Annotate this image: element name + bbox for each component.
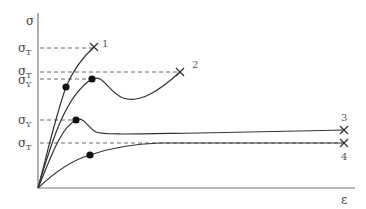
stress-label-sigma-t-3: σ T bbox=[18, 136, 32, 152]
stress-strain-diagram: σ ε σ T σ T σ Y σ Y σ T 1 2 bbox=[0, 0, 366, 209]
svg-text:σ: σ bbox=[18, 73, 26, 87]
curve-1-label: 1 bbox=[102, 38, 108, 49]
stress-label-sigma-t-1: σ T bbox=[18, 41, 32, 57]
curve-2-point bbox=[88, 75, 95, 82]
curve-4 bbox=[38, 143, 344, 188]
curve-1-fracture-x-icon bbox=[90, 43, 98, 51]
y-axis-label: σ bbox=[26, 14, 34, 28]
svg-text:σ: σ bbox=[18, 41, 26, 55]
curve-3 bbox=[38, 119, 344, 188]
svg-text:T: T bbox=[26, 48, 32, 57]
svg-text:Y: Y bbox=[25, 80, 32, 89]
x-axis-label: ε bbox=[341, 193, 347, 207]
curve-4-label: 4 bbox=[341, 151, 347, 162]
svg-text:σ: σ bbox=[18, 136, 26, 150]
curve-1-point bbox=[62, 83, 69, 90]
curve-4-point bbox=[86, 151, 93, 158]
curve-3-point bbox=[72, 116, 79, 123]
curve-2-fracture-x-icon bbox=[176, 68, 184, 76]
curve-2-label: 2 bbox=[192, 59, 198, 70]
svg-text:T: T bbox=[26, 143, 32, 152]
svg-text:σ: σ bbox=[18, 113, 26, 127]
curve-3-label: 3 bbox=[341, 112, 347, 123]
stress-label-sigma-y-2: σ Y bbox=[18, 113, 32, 129]
svg-text:Y: Y bbox=[25, 120, 32, 129]
svg-text:T: T bbox=[26, 71, 32, 80]
